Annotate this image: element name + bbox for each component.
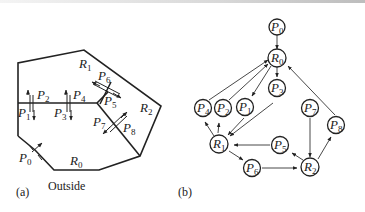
label-P2: P2 — [36, 87, 49, 104]
label-outside: Outside — [48, 179, 85, 193]
label-R1: R1 — [78, 56, 91, 73]
label-P0: P0 — [18, 150, 32, 167]
label-P4: P4 — [72, 87, 86, 104]
label-R2: R2 — [139, 100, 152, 117]
caption-a: (a) — [16, 185, 29, 199]
label-P7: P7 — [92, 114, 106, 131]
floor-plan-labels: R1 R2 R0 P0 P1 P2 P3 P4 P5 P6 P7 P8 Outs… — [16, 56, 152, 199]
label-P3: P3 — [53, 105, 67, 122]
figure: R1 R2 R0 P0 P1 P2 P3 P4 P5 P6 P7 P8 Outs… — [0, 0, 365, 212]
caption-b: (b) — [178, 185, 192, 199]
label-P1: P1 — [17, 105, 30, 122]
label-R0: R0 — [69, 153, 83, 170]
label-P8: P8 — [122, 120, 136, 137]
label-P6: P6 — [97, 68, 111, 85]
